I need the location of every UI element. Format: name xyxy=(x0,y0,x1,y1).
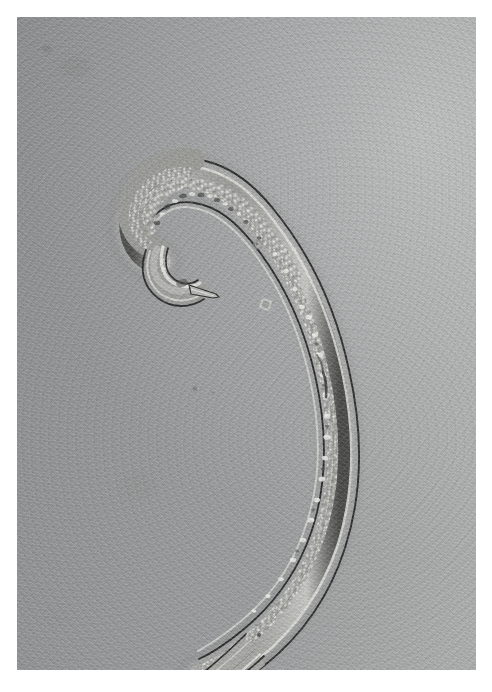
field-vignette xyxy=(17,17,476,670)
micrograph-plate xyxy=(17,17,476,670)
figure-root xyxy=(0,0,492,692)
